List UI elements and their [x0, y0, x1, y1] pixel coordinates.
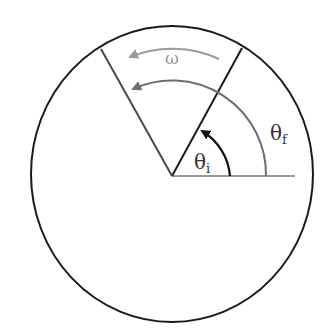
omega-label: ω [165, 48, 179, 68]
final-position-line [101, 49, 172, 176]
rotation-diagram: ω θi θf [0, 0, 331, 334]
theta-i-label: θi [194, 150, 210, 176]
theta-i-symbol: θ [194, 150, 206, 174]
theta-i-subscript: i [206, 161, 210, 176]
theta-f-subscript: f [282, 132, 288, 147]
initial-position-line [172, 48, 242, 176]
theta-f-symbol: θ [270, 121, 282, 145]
theta-f-label: θf [270, 121, 288, 147]
